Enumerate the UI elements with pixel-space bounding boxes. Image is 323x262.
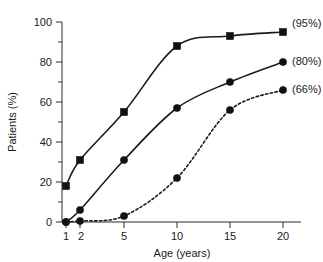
line-chart: 0 20 40 60 80 100 1 2 5 10 15 20 Age (ye… bbox=[0, 0, 323, 262]
y-tick-label-0: 0 bbox=[46, 216, 52, 228]
x-axis-title: Age (years) bbox=[154, 247, 211, 259]
series-layer bbox=[62, 29, 286, 226]
data-point bbox=[226, 78, 233, 85]
series-label-95: (95%) bbox=[292, 17, 321, 29]
data-point bbox=[76, 206, 83, 213]
x-tick-label-2: 2 bbox=[78, 230, 84, 242]
y-tick-label-80: 80 bbox=[40, 56, 52, 68]
data-point bbox=[120, 212, 127, 219]
y-axis-ticks bbox=[56, 22, 62, 222]
y-tick-label-100: 100 bbox=[34, 16, 52, 28]
y-tick-label-40: 40 bbox=[40, 136, 52, 148]
series-2-line bbox=[66, 62, 283, 222]
x-tick-label-20: 20 bbox=[277, 230, 289, 242]
y-tick-label-60: 60 bbox=[40, 96, 52, 108]
series-label-66: (66%) bbox=[292, 83, 321, 95]
x-tick-label-15: 15 bbox=[224, 230, 236, 242]
data-point bbox=[173, 174, 180, 181]
data-point bbox=[63, 183, 70, 190]
data-point bbox=[62, 218, 69, 225]
y-tick-label-20: 20 bbox=[40, 176, 52, 188]
x-tick-label-10: 10 bbox=[171, 230, 183, 242]
data-point bbox=[279, 86, 286, 93]
data-point bbox=[227, 33, 234, 40]
x-tick-label-1: 1 bbox=[63, 230, 69, 242]
data-point bbox=[279, 58, 286, 65]
data-point bbox=[174, 43, 181, 50]
y-axis-title: Patients (%) bbox=[6, 92, 18, 152]
x-axis-ticks bbox=[66, 222, 283, 228]
data-point bbox=[77, 157, 84, 164]
data-point bbox=[226, 106, 233, 113]
data-point bbox=[76, 217, 83, 224]
data-point bbox=[280, 29, 287, 36]
chart-figure: 0 20 40 60 80 100 1 2 5 10 15 20 Age (ye… bbox=[0, 0, 323, 262]
data-point bbox=[120, 156, 127, 163]
x-tick-label-5: 5 bbox=[121, 230, 127, 242]
data-point bbox=[121, 109, 128, 116]
data-point bbox=[173, 104, 180, 111]
series-label-80: (80%) bbox=[292, 55, 321, 67]
